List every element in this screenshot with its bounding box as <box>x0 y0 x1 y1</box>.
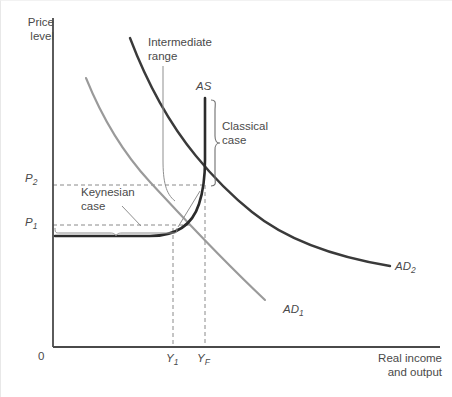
x-axis-label: Real incomeand output <box>330 352 442 379</box>
x-tick-label-y1: Y1 <box>166 352 178 370</box>
x-tick-label-yf: YF <box>197 352 210 370</box>
axes <box>53 18 440 347</box>
curve-label-ad2: AD2 <box>395 260 416 278</box>
annotation-keynesian-case: Keynesiancase <box>81 186 135 213</box>
as-ad-diagram: Pricelevel Real incomeand output 0 P2 P1… <box>0 0 452 397</box>
leader-intermediate-range <box>163 66 175 201</box>
curve-as <box>55 98 205 236</box>
curve-ad2 <box>130 38 390 266</box>
y-tick-label-p1: P1 <box>25 216 37 234</box>
annotation-intermediate-range: Intermediaterange <box>148 36 212 63</box>
curve-label-as: AS <box>196 80 211 94</box>
y-tick-label-p2: P2 <box>25 172 37 190</box>
annotation-classical-case: Classicalcase <box>222 120 268 147</box>
y-axis-label: Pricelevel <box>12 16 54 43</box>
origin-label: 0 <box>38 350 44 364</box>
curve-label-ad1: AD1 <box>283 303 304 321</box>
plot-canvas <box>0 0 452 397</box>
